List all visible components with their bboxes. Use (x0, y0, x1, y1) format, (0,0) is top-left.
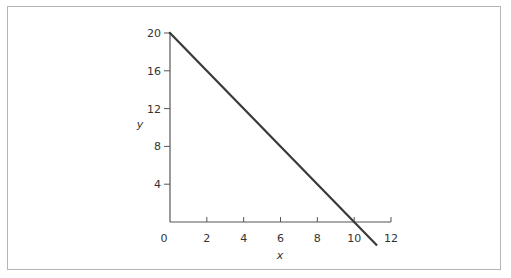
x-tick-label: 0 (161, 232, 168, 245)
x-tick-label: 12 (384, 232, 398, 245)
y-tick-label: 20 (147, 27, 161, 40)
y-tick-label: 12 (147, 103, 161, 116)
x-tick-label: 2 (203, 232, 210, 245)
line-chart: 02468101248121620 x y (0, 0, 511, 278)
x-axis-label: x (276, 249, 284, 262)
x-tick-label: 8 (314, 232, 321, 245)
ticks: 02468101248121620 (147, 27, 398, 245)
x-tick-label: 4 (240, 232, 247, 245)
y-tick-label: 16 (147, 65, 161, 78)
y-tick-label: 4 (154, 178, 161, 191)
x-tick-label: 6 (277, 232, 284, 245)
axes (170, 33, 391, 222)
series (170, 33, 376, 245)
y-tick-label: 8 (154, 140, 161, 153)
data-line (170, 33, 376, 245)
x-tick-label: 10 (347, 232, 361, 245)
y-axis-label: y (136, 118, 144, 131)
